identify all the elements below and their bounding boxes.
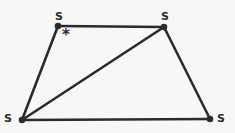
figure-diagonal	[22, 27, 164, 120]
figure-vertex-dots	[19, 23, 214, 124]
right-edge	[164, 27, 210, 119]
vertex-label-bottom-right: S	[217, 113, 225, 124]
left-edge	[22, 26, 58, 120]
vertex-label-top-right: S	[161, 11, 169, 22]
top-edge	[58, 26, 164, 27]
angle-asterisk-mark: *	[62, 28, 70, 43]
trapezoid-figure	[0, 0, 235, 133]
diagonal-line	[22, 27, 164, 120]
figure-edges	[22, 26, 210, 120]
vertex-dot-top-right	[161, 24, 168, 31]
vertex-label-bottom-left: S	[4, 113, 12, 124]
bottom-edge	[22, 119, 210, 120]
vertex-label-top-left: S	[55, 11, 63, 22]
vertex-dot-bottom-left	[19, 117, 26, 124]
vertex-dot-bottom-right	[207, 116, 214, 123]
vertex-dot-top-left	[55, 23, 62, 30]
diagram-canvas: S S S S *	[0, 0, 235, 133]
